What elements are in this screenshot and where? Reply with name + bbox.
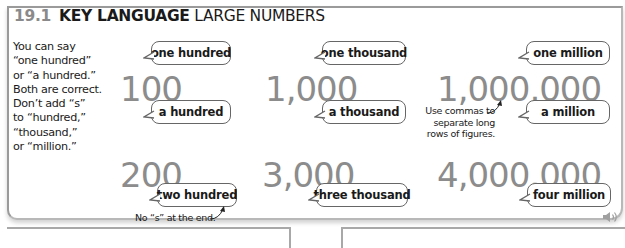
speech-bubble: one million: [526, 41, 610, 65]
bubble-tail-icon: [314, 51, 326, 61]
bubble-tail-icon: [143, 51, 155, 61]
sidenote-line: “one hundred”: [13, 54, 123, 68]
speech-bubble: three thousand: [316, 183, 408, 207]
sidenote-line: Don’t add “s”: [13, 97, 123, 111]
bubble-tail-icon: [308, 193, 320, 203]
speech-bubble: two hundred: [157, 183, 237, 207]
bubble-tail-icon: [149, 193, 161, 203]
no-s-annotation: No “s” at the end.: [135, 212, 215, 224]
bubble-tail-icon: [518, 51, 530, 61]
bubble-tail-icon: [314, 110, 326, 120]
sidenote-line: “thousand,”: [13, 126, 123, 140]
bubble-tail-icon: [519, 193, 531, 203]
sidenote-line: or “a hundred.”: [13, 69, 123, 83]
lower-left-panel-edge: [7, 227, 291, 248]
speech-bubble: a thousand: [322, 100, 406, 124]
speaker-icon[interactable]: [602, 210, 620, 224]
commas-annotation: Use commas to separate long rows of figu…: [421, 105, 495, 140]
speech-bubble: one hundred: [151, 41, 231, 65]
arrow-icon: [209, 205, 229, 221]
sidenote: You can say “one hundred” or “a hundred.…: [13, 40, 123, 154]
bubble-tail-icon: [143, 110, 155, 120]
speech-bubble: a million: [526, 100, 610, 124]
speech-bubble: one thousand: [322, 41, 406, 65]
page-title: 19.1KEY LANGUAGE LARGE NUMBERS: [14, 7, 325, 25]
bubble-tail-icon: [518, 110, 530, 120]
lower-right-panel-edge: [341, 227, 625, 248]
speech-bubble: a hundred: [151, 100, 231, 124]
sidenote-line: or “million.”: [13, 140, 123, 154]
arrow-icon: [486, 99, 506, 115]
section-number: 19.1: [14, 7, 51, 25]
sidenote-line: to “hundred,”: [13, 111, 123, 125]
sidenote-line: Both are correct.: [13, 83, 123, 97]
title-bold: KEY LANGUAGE: [59, 7, 190, 25]
speech-bubble: four million: [527, 183, 611, 207]
sidenote-line: You can say: [13, 40, 123, 54]
title-rest: LARGE NUMBERS: [194, 7, 325, 25]
